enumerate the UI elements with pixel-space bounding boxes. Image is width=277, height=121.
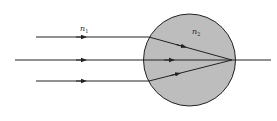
label-n1: n1 — [80, 24, 88, 34]
sphere-refraction-diagram: n1 n2 — [0, 0, 277, 121]
